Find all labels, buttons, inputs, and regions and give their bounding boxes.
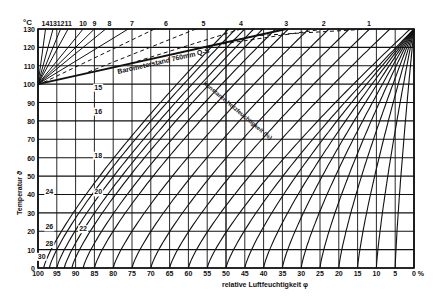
x-axis-ticks: 1009590858075706560555045403530252015105… xyxy=(32,270,425,277)
svg-text:30: 30 xyxy=(38,253,46,260)
svg-text:40: 40 xyxy=(27,191,35,198)
svg-text:70: 70 xyxy=(147,270,155,277)
svg-text:4: 4 xyxy=(239,20,243,27)
svg-text:2: 2 xyxy=(322,20,326,27)
svg-text:25: 25 xyxy=(316,270,324,277)
svg-text:130: 130 xyxy=(23,26,35,33)
svg-text:45: 45 xyxy=(241,270,249,277)
y-unit-label: °C xyxy=(23,18,32,27)
svg-text:7: 7 xyxy=(130,20,134,27)
svg-text:50: 50 xyxy=(222,270,230,277)
svg-text:85: 85 xyxy=(91,270,99,277)
svg-text:60: 60 xyxy=(185,270,193,277)
svg-text:18: 18 xyxy=(94,152,102,159)
svg-text:24: 24 xyxy=(45,188,53,195)
svg-text:5: 5 xyxy=(393,270,397,277)
svg-text:1: 1 xyxy=(367,20,371,27)
y-axis-label: Temperatur ϑ xyxy=(16,170,24,215)
curve-family-annotation: konstante Holzfeuchtigkeit (%) xyxy=(202,80,273,141)
svg-text:10: 10 xyxy=(27,247,35,254)
svg-text:75: 75 xyxy=(128,270,136,277)
svg-text:35: 35 xyxy=(279,270,287,277)
barometer-annotation: Barometerstand 760mm Q-S xyxy=(117,47,211,76)
svg-text:5: 5 xyxy=(201,20,205,27)
svg-text:20: 20 xyxy=(27,228,35,235)
svg-text:10: 10 xyxy=(79,20,87,27)
svg-text:6: 6 xyxy=(164,20,168,27)
x-axis-label: relative Luftfeuchtigkeit φ xyxy=(222,281,308,289)
svg-text:70: 70 xyxy=(27,136,35,143)
svg-text:15: 15 xyxy=(94,84,102,91)
svg-text:110: 110 xyxy=(24,63,35,70)
svg-text:0 %: 0 % xyxy=(412,270,425,277)
svg-text:9: 9 xyxy=(92,20,96,27)
svg-text:10: 10 xyxy=(373,270,381,277)
svg-text:80: 80 xyxy=(27,118,35,125)
svg-text:50: 50 xyxy=(27,173,35,180)
svg-text:26: 26 xyxy=(45,223,53,230)
svg-text:55: 55 xyxy=(203,270,211,277)
svg-text:30: 30 xyxy=(297,270,305,277)
svg-text:8: 8 xyxy=(107,20,111,27)
svg-text:120: 120 xyxy=(23,44,35,51)
svg-text:95: 95 xyxy=(53,270,61,277)
svg-text:100: 100 xyxy=(32,270,44,277)
svg-text:90: 90 xyxy=(27,100,35,107)
svg-text:20: 20 xyxy=(94,188,102,195)
sorption-isotherm-chart: 0102030405060708090100110120130 10095908… xyxy=(0,0,448,303)
svg-text:3: 3 xyxy=(284,20,288,27)
top-curve-labels: 1413121110987654321 xyxy=(42,20,371,27)
svg-text:28: 28 xyxy=(45,240,53,247)
svg-text:16: 16 xyxy=(94,108,102,115)
svg-text:11: 11 xyxy=(64,20,72,27)
svg-text:12: 12 xyxy=(57,20,65,27)
svg-text:15: 15 xyxy=(354,270,362,277)
svg-text:40: 40 xyxy=(260,270,268,277)
svg-text:65: 65 xyxy=(166,270,174,277)
inner-curve-labels: 151618202224262830 xyxy=(37,84,103,261)
svg-text:100: 100 xyxy=(23,81,35,88)
svg-text:22: 22 xyxy=(79,225,87,232)
svg-text:60: 60 xyxy=(27,155,35,162)
svg-text:80: 80 xyxy=(109,270,117,277)
svg-text:20: 20 xyxy=(335,270,343,277)
svg-text:30: 30 xyxy=(27,210,35,217)
y-axis-ticks: 0102030405060708090100110120130 xyxy=(23,26,35,272)
svg-text:90: 90 xyxy=(72,270,80,277)
